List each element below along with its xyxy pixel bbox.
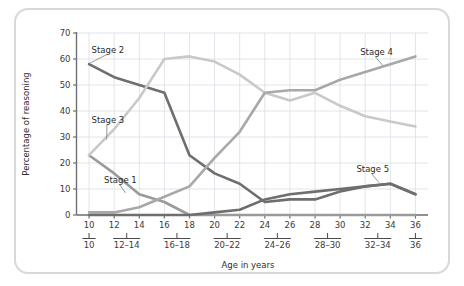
- y-tick-label: 10: [60, 184, 71, 194]
- chart-figure: 010203040506070 101214161820222426283032…: [0, 0, 464, 286]
- x-tick-label: 32: [360, 220, 371, 230]
- x-tick-label: 24: [259, 220, 270, 230]
- series-label-stage-3: Stage 3: [92, 115, 125, 125]
- x-tick-label: 18: [184, 220, 195, 230]
- series-label-stage-2: Stage 2: [92, 45, 125, 55]
- x-tick-label: 22: [234, 220, 245, 230]
- series-label-stage-5: Stage 5: [356, 164, 389, 174]
- data-series: [89, 56, 415, 215]
- y-tick-label: 30: [60, 132, 71, 142]
- x-tick-label: 34: [385, 220, 396, 230]
- series-leader-line: [376, 57, 383, 65]
- x-axis-group-labels: 1012–1416–1820–2224–2628–3032–3436: [82, 233, 422, 250]
- y-axis-title: Percentage of reasoning: [21, 72, 31, 175]
- x-tick-label: 36: [410, 220, 421, 230]
- x-tick-label: 30: [335, 220, 346, 230]
- series-annotations: Stage 1Stage 2Stage 3Stage 4Stage 5: [90, 45, 393, 193]
- x-group-label: 28–30: [315, 240, 341, 250]
- series-line-stage-5: [89, 184, 415, 215]
- x-group-label: 16–18: [164, 240, 190, 250]
- x-tick-label: 26: [284, 220, 295, 230]
- y-tick-label: 0: [65, 210, 70, 220]
- x-group-label: 10: [84, 240, 95, 250]
- y-axis-ticks: 010203040506070: [60, 28, 77, 220]
- y-tick-label: 60: [60, 54, 71, 64]
- series-label-stage-4: Stage 4: [360, 47, 393, 57]
- x-group-label: 20–22: [214, 240, 240, 250]
- y-tick-label: 20: [60, 158, 71, 168]
- gridlines: [77, 33, 429, 215]
- series-label-stage-1: Stage 1: [104, 175, 137, 185]
- x-group-label: 36: [410, 240, 421, 250]
- x-tick-label: 12: [109, 220, 120, 230]
- x-group-label: 24–26: [264, 240, 290, 250]
- x-axis-title: Age in years: [222, 260, 276, 270]
- x-group-label: 32–34: [365, 240, 391, 250]
- line-chart: 010203040506070 101214161820222426283032…: [0, 0, 464, 286]
- x-tick-label: 28: [310, 220, 321, 230]
- x-tick-label: 16: [159, 220, 170, 230]
- x-tick-label: 14: [134, 220, 145, 230]
- x-tick-label: 20: [209, 220, 220, 230]
- x-axis-ticks: 1012141618202224262830323436: [84, 215, 421, 230]
- x-group-label: 12–14: [114, 240, 140, 250]
- y-tick-label: 70: [60, 28, 71, 38]
- y-tick-label: 40: [60, 106, 71, 116]
- y-tick-label: 50: [60, 80, 71, 90]
- series-leader-line: [372, 174, 379, 182]
- x-tick-label: 10: [84, 220, 95, 230]
